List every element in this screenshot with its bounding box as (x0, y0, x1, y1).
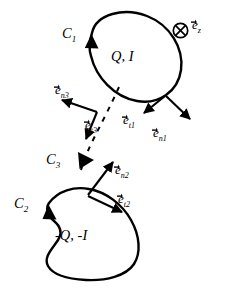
vector-arrow-accent-icon (152, 121, 158, 126)
label-c3: C3 (46, 152, 60, 170)
label-en1: en1 (153, 126, 167, 143)
into-page-cross-circle-icon (173, 23, 187, 37)
vector-et1-arrow (144, 96, 165, 113)
label-en3: en3 (55, 83, 69, 100)
vector-en3-arrow (62, 100, 97, 112)
label-loop2-charge: -Q, -I (55, 228, 87, 243)
loop-c2-direction-arrowhead (43, 205, 57, 220)
vector-accent-et1: e (123, 113, 129, 126)
diagram-vector-graphics (0, 0, 227, 289)
vector-arrow-accent-icon (114, 158, 120, 163)
vector-accent-en1: e (153, 126, 159, 139)
label-et3: et3 (85, 118, 97, 135)
vector-accent-ez: e (192, 18, 198, 31)
vector-arrow-accent-icon (122, 108, 128, 113)
loop-c1-curve (89, 12, 181, 102)
vector-arrow-accent-icon (54, 78, 60, 83)
label-et1: et1 (123, 113, 135, 130)
label-c1: C1 (62, 26, 76, 44)
label-et2: et2 (118, 192, 130, 209)
label-ez: ez (192, 18, 201, 35)
figure-canvas: C1 Q, I ez et1 (0, 0, 227, 289)
vector-accent-en2: e (115, 163, 121, 176)
vector-accent-et3: e (85, 118, 91, 131)
vector-en1-arrow (166, 96, 190, 119)
label-c2: C2 (14, 196, 28, 214)
vector-arrow-accent-icon (117, 187, 123, 192)
loop-c1-direction-arrowhead (85, 34, 99, 49)
vector-arrow-accent-icon (191, 13, 197, 18)
vector-en2-arrow (88, 162, 113, 195)
vector-arrow-accent-icon (84, 113, 90, 118)
contour-c3-direction-arrowhead (78, 152, 94, 169)
label-en2: en2 (115, 163, 129, 180)
vector-accent-en3: e (55, 83, 61, 96)
label-loop1-charge: Q, I (111, 49, 134, 64)
vector-accent-et2: e (118, 192, 124, 205)
